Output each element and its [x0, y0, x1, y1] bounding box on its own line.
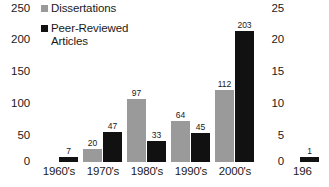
y2-tick-25: 25 [258, 3, 284, 15]
y2-tick-5: 5 [258, 130, 284, 142]
y-tick-250: 250 [0, 3, 30, 15]
y-tick-150: 150 [0, 66, 30, 78]
bar-dissertations-1980s: 97 [127, 99, 146, 162]
secondary-x-tick: 196 [293, 164, 312, 178]
bar-articles-1980s: 33 [147, 141, 166, 162]
y-tick-50: 50 [0, 130, 30, 142]
figure: 250 200 150 100 50 0 7 20 [0, 0, 329, 187]
bar-articles-2000s: 203 [235, 31, 254, 162]
x-tick-2000s: 2000's [209, 164, 261, 178]
bar-value-label: 203 [237, 21, 251, 30]
secondary-plot-area: 1 [284, 0, 329, 162]
bar-dissertations-1970s: 20 [83, 149, 102, 162]
y2-tick-10: 10 [258, 98, 284, 110]
secondary-bar: 1 [300, 157, 319, 162]
y2-tick-20: 20 [258, 34, 284, 46]
bar-articles-1990s: 45 [191, 133, 210, 162]
legend-label: Peer-Reviewed Articles [51, 22, 147, 48]
bar-value-label: 20 [88, 139, 97, 148]
bar-value-label: 45 [196, 123, 205, 132]
y-tick-200: 200 [0, 34, 30, 46]
bar-articles-1970s: 47 [103, 132, 122, 162]
bar-dissertations-2000s: 112 [215, 90, 234, 162]
bar-dissertations-1990s: 64 [171, 121, 190, 162]
bar-value-label: 112 [218, 80, 232, 89]
bar-articles-1960s: 7 [59, 157, 78, 162]
x-axis: 1960's 1970's 1980's 1990's 2000's [33, 164, 255, 184]
bar-group-2000s: 112 203 [215, 0, 255, 162]
bar-value-label: 64 [176, 111, 185, 120]
legend-swatch-icon [41, 25, 48, 32]
bar-value-label: 33 [152, 131, 161, 140]
y-tick-100: 100 [0, 98, 30, 110]
y2-tick-15: 15 [258, 66, 284, 78]
legend-swatch-icon [41, 5, 48, 12]
secondary-bar-chart-cropped: 1 196 [284, 0, 329, 187]
legend-label: Dissertations [51, 2, 116, 15]
legend-item-dissertations: Dissertations [41, 2, 116, 15]
secondary-bar-group: 1 [300, 0, 329, 162]
primary-bar-chart: 250 200 150 100 50 0 7 20 [0, 0, 258, 187]
y-axis-secondary: 25 20 15 10 5 0 [258, 0, 284, 187]
y-tick-0: 0 [0, 156, 30, 168]
y2-tick-0: 0 [258, 156, 284, 168]
bar-value-label: 7 [66, 147, 71, 156]
bar-value-label: 97 [132, 89, 141, 98]
y-axis-left: 250 200 150 100 50 0 [0, 0, 30, 187]
secondary-bar-value-label: 1 [307, 147, 312, 156]
bar-value-label: 47 [108, 122, 117, 131]
bar-group-1990s: 64 45 [171, 0, 211, 162]
legend-item-articles: Peer-Reviewed Articles [41, 22, 147, 48]
